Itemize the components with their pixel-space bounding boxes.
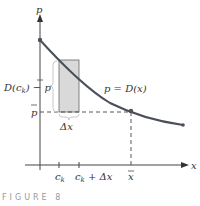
xbar-label: x bbox=[128, 171, 134, 182]
curve-end-dot bbox=[181, 123, 185, 127]
svg-text:x: x bbox=[128, 171, 134, 182]
ck-plus-dx-label: ck + Δx bbox=[75, 171, 113, 184]
x-axis-label: x bbox=[191, 160, 197, 171]
x-axis-arrow-icon bbox=[181, 162, 189, 168]
svg-text:p: p bbox=[31, 107, 38, 118]
riemann-rectangle bbox=[59, 60, 79, 112]
width-brace bbox=[59, 114, 79, 120]
y-axis-label: p bbox=[36, 4, 43, 15]
delta-x-label: Δx bbox=[59, 121, 73, 132]
equilibrium-dot bbox=[129, 109, 133, 113]
curve-label: p = D(x) bbox=[104, 83, 147, 94]
figure-caption: FIGURE 8 bbox=[2, 193, 63, 202]
curve-start-dot bbox=[38, 38, 42, 42]
svg-text:D(ck) − p: D(ck) − p bbox=[3, 82, 51, 95]
ck-label: ck bbox=[55, 171, 65, 184]
height-label: D(ck) − p bbox=[3, 80, 51, 95]
y-axis-arrow-icon bbox=[37, 14, 43, 22]
pbar-label: p bbox=[31, 105, 38, 118]
demand-curve-figure: p x p = D(x) D(ck) − p p Δx ck ck + Δx x… bbox=[0, 0, 200, 206]
height-brace bbox=[50, 61, 57, 112]
